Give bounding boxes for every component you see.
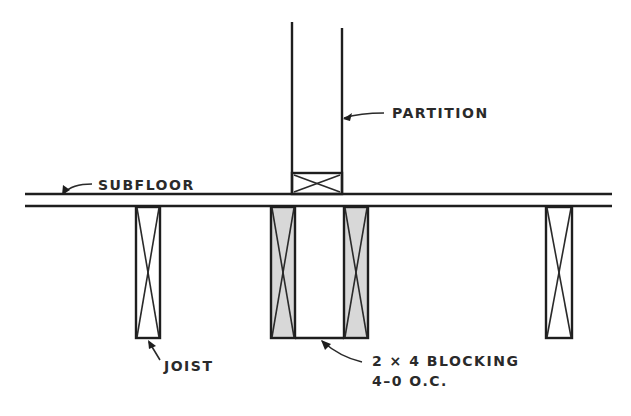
blocking-joist-2 [344,207,368,338]
partition-label: PARTITION [392,105,489,121]
blocking-leader [321,340,362,362]
subfloor [25,194,612,206]
blocking-label-line1: 2 × 4 BLOCKING [372,353,519,369]
blocking-label-line2: 4–0 O.C. [372,373,448,389]
partition-wall [292,22,342,194]
joist-left [136,207,160,338]
blocking-joist-1 [271,207,295,338]
joist-right [546,207,572,338]
subfloor-label: SUBFLOOR [98,177,195,193]
joist-leader [148,340,160,360]
framing-diagram: PARTITION SUBFLOOR JOIST 2 × 4 BLOCKING … [0,0,631,416]
joist-label: JOIST [163,358,213,374]
partition-leader [343,113,384,121]
